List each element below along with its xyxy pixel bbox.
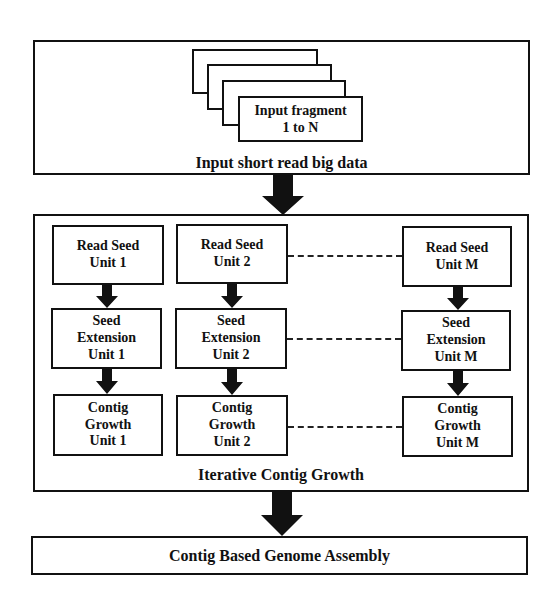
arrow-down-icon — [220, 284, 244, 308]
read-seed-unit-2: Read Seed Unit 2 — [176, 224, 288, 284]
unit-label: Read Seed — [77, 238, 140, 255]
seed-extension-unit-m: Seed Extension Unit M — [401, 310, 511, 371]
contig-growth-unit-2: Contig Growth Unit 2 — [176, 395, 288, 456]
unit-label: Read Seed — [201, 237, 264, 254]
seed-extension-unit-2: Seed Extension Unit 2 — [175, 308, 287, 369]
unit-label: Extension — [201, 330, 260, 347]
unit-label: Unit M — [436, 435, 479, 452]
iterative-stage-label: Iterative Contig Growth — [33, 466, 529, 484]
unit-label: Unit M — [434, 349, 477, 366]
arrow-down-icon — [95, 285, 119, 308]
unit-label: Seed — [93, 313, 121, 330]
seed-extension-unit-1: Seed Extension Unit 1 — [51, 308, 162, 369]
unit-label: Growth — [85, 417, 131, 434]
unit-label: Unit 1 — [90, 255, 127, 272]
unit-label: Growth — [434, 418, 480, 435]
unit-label: Read Seed — [426, 240, 489, 257]
arrow-down-icon — [95, 369, 119, 394]
unit-label: Unit 1 — [90, 433, 127, 450]
unit-label: Extension — [426, 332, 485, 349]
unit-label: Seed — [442, 315, 470, 332]
arrow-down-icon — [446, 371, 470, 396]
output-stage-label: Contig Based Genome Assembly — [169, 547, 390, 565]
fragment-card-front: Input fragment 1 to N — [238, 96, 363, 142]
dashed-connector-read-seed — [288, 255, 402, 257]
unit-label: Seed — [217, 313, 245, 330]
unit-label: Growth — [209, 417, 255, 434]
unit-label: Contig — [212, 400, 252, 417]
unit-label: Unit 1 — [88, 347, 125, 364]
contig-growth-unit-1: Contig Growth Unit 1 — [53, 394, 163, 456]
unit-label: Unit 2 — [214, 434, 251, 451]
read-seed-unit-1: Read Seed Unit 1 — [52, 225, 164, 285]
dashed-connector-seed-extension — [287, 338, 401, 340]
arrow-down-icon — [446, 287, 470, 310]
unit-label: Unit 2 — [214, 254, 251, 271]
unit-label: Contig — [88, 400, 128, 417]
input-stage-label: Input short read big data — [33, 154, 530, 172]
output-stage-box: Contig Based Genome Assembly — [31, 536, 528, 575]
fragment-label-line1: Input fragment — [254, 102, 346, 120]
unit-label: Contig — [437, 401, 477, 418]
unit-label: Extension — [77, 330, 136, 347]
unit-label: Unit M — [435, 257, 478, 274]
read-seed-unit-m: Read Seed Unit M — [402, 226, 512, 287]
dashed-connector-contig-growth — [288, 426, 402, 428]
arrow-down-icon — [259, 491, 305, 537]
arrow-down-icon — [260, 174, 306, 216]
arrow-down-icon — [220, 369, 244, 395]
unit-label: Unit 2 — [213, 347, 250, 364]
contig-growth-unit-m: Contig Growth Unit M — [402, 396, 513, 457]
fragment-label-line2: 1 to N — [283, 119, 319, 137]
